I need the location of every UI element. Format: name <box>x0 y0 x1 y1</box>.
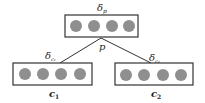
child-node-c1: δc₁ c1 <box>13 50 92 100</box>
c2-label: c2 <box>151 88 161 100</box>
c2-unit-4 <box>175 69 187 81</box>
parent-delta-label: δp <box>97 2 107 15</box>
child-node-c2: δc₂ c2 <box>115 52 193 100</box>
c1-delta-label: δc₁ <box>45 50 56 62</box>
parent-label: p <box>99 41 106 52</box>
parent-unit-4 <box>123 20 135 32</box>
parent-unit-1 <box>70 20 82 32</box>
c2-unit-3 <box>157 69 169 81</box>
parent-node-p: δp p <box>65 2 138 52</box>
tree-diagram: δp p δc₁ c1 δc₂ c2 <box>0 0 205 103</box>
c1-unit-4 <box>74 68 86 80</box>
edge-parent-to-c1 <box>60 38 101 63</box>
c2-delta-label: δc₂ <box>149 52 160 64</box>
c1-unit-3 <box>55 68 67 80</box>
c1-label: c1 <box>49 88 59 100</box>
c1-unit-2 <box>37 68 49 80</box>
parent-unit-3 <box>106 20 118 32</box>
c2-unit-1 <box>120 69 132 81</box>
c1-unit-1 <box>19 68 31 80</box>
edge-parent-to-c2 <box>101 38 151 63</box>
parent-unit-2 <box>88 20 100 32</box>
c2-unit-2 <box>138 69 150 81</box>
